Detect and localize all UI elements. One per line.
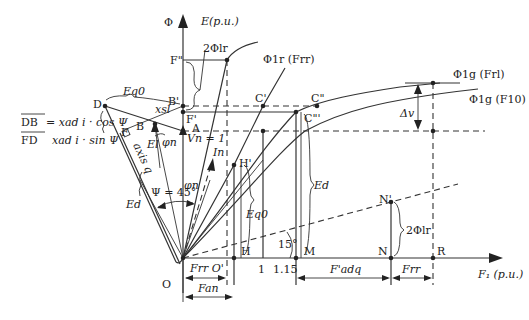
equation-2-lhs: FD [21,134,38,147]
label-psi: Ψ = 45° [151,186,196,199]
arrow-icon [157,202,166,209]
label-frr-right: Frr [401,263,421,276]
label-n-prime: N' [379,193,392,206]
arrow-icon [424,275,432,281]
label-f-prime: F' [186,113,197,126]
label-r: R [437,245,446,258]
dashed-15deg-line [183,184,458,258]
tick-label-1-15: 1.15 [273,263,298,276]
label-o: O [162,278,171,291]
label-2phi-lr-right: 2Φlr [406,224,432,237]
label-delta-v: Δv [399,107,415,120]
label-2phi-lr-top: 2Φlr [203,42,229,55]
label-fan-phi: Fan [197,282,219,295]
label-c-triple-prime: C"' [304,112,321,125]
arrow-icon [382,275,390,281]
x-axis [183,253,503,263]
label-f-double-prime: F" [170,54,183,67]
label-angle-15: 15° [278,238,298,251]
brace-2phi-lr-top [186,62,200,110]
brace-2phi-lr-right [394,202,404,256]
arrow-icon [207,158,215,171]
label-m: M [304,245,315,258]
leader-line [200,50,205,90]
y-axis-label: Φ [164,16,173,29]
equation-2-rhs: xad i · sin Ψ [52,134,119,147]
label-h-prime: H' [239,157,252,170]
equation-1-lhs: DB [21,116,38,129]
label-phi-n-top: φn [162,136,177,149]
arrow-icon [225,294,233,300]
points [103,58,436,261]
label-in: In [212,146,224,159]
magnetization-phasor-diagram: Φ E(p.u.) F₁ (p.u.) [0,0,529,320]
label-d: D [93,98,102,111]
arrow-icon [392,275,400,281]
label-h: H [241,245,251,258]
label-ed-right: Ed [313,179,329,192]
y-axis-unit-label: E(p.u.) [200,15,239,28]
tick-label-1: 1 [258,263,265,276]
arrow-icon [218,275,226,281]
label-xsl: xsl [155,103,171,116]
y-axis-arrow-icon [178,14,188,28]
label-curve-phi-1g-f10: Φ1g (F10) [469,93,526,106]
label-fadq: F'adq [329,263,361,276]
label-el: El [146,138,159,151]
x-axis-arrow-icon [489,253,503,263]
equations: DB = xad i · cos Ψ FD xad i · sin Ψ [21,114,128,147]
label-frr-o: Frr O' [189,262,224,275]
label-c-double-prime: C" [311,92,324,105]
label-eq0-top: Eq0 [122,85,145,98]
equation-1-rhs: = xad i · cos Ψ [46,116,128,129]
label-c-prime: C' [255,92,266,105]
label-n: N [378,245,388,258]
arrow-icon [297,275,305,281]
label-eq0-mid: Eq0 [245,208,268,221]
label-curve-phi-1g-frl: Φ1g (Frl) [453,68,505,81]
arrow-icon [185,275,193,281]
arrow-icon [414,120,422,130]
label-ed-left: Ed [125,198,141,211]
arrow-icon [186,200,195,207]
label-b: B [136,120,144,133]
label-vn: Vn = 1 [187,132,225,145]
arrow-icon [185,294,193,300]
label-curve-phi-1r: Φ1r (Frr) [263,53,315,66]
brace-ed-right [304,114,314,255]
x-axis-label: F₁ (p.u.) [477,268,523,281]
